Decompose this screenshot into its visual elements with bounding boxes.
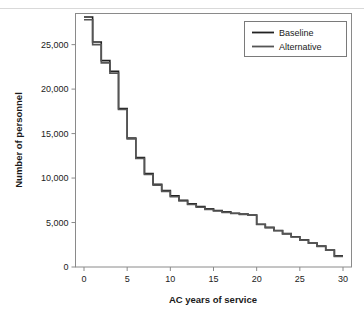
y-tick-label: 20,000 bbox=[41, 84, 69, 94]
figure-top-rule bbox=[0, 8, 364, 9]
y-tick-label: 10,000 bbox=[41, 173, 69, 183]
legend-label-baseline: Baseline bbox=[279, 28, 314, 38]
x-tick-label: 15 bbox=[208, 274, 218, 284]
x-tick-label: 10 bbox=[165, 274, 175, 284]
x-tick-label: 25 bbox=[295, 274, 305, 284]
x-axis: 051015202530 bbox=[81, 267, 348, 284]
chart-figure: 05,00010,00015,00020,00025,000 051015202… bbox=[0, 0, 364, 320]
legend[interactable]: Baseline Alternative bbox=[245, 22, 347, 57]
x-axis-title: AC years of service bbox=[169, 294, 257, 305]
y-tick-label: 25,000 bbox=[41, 40, 69, 50]
y-axis-title: Number of personnel bbox=[13, 92, 24, 188]
y-tick-label: 15,000 bbox=[41, 129, 69, 139]
step-chart-canvas: 05,00010,00015,00020,00025,000 051015202… bbox=[0, 0, 364, 320]
y-tick-label: 0 bbox=[63, 262, 68, 272]
y-axis: 05,00010,00015,00020,00025,000 bbox=[41, 40, 76, 272]
y-tick-label: 5,000 bbox=[46, 218, 69, 228]
x-tick-label: 5 bbox=[125, 274, 130, 284]
x-tick-label: 20 bbox=[252, 274, 262, 284]
legend-label-alternative: Alternative bbox=[279, 42, 322, 52]
x-tick-label: 30 bbox=[338, 274, 348, 284]
x-tick-label: 0 bbox=[81, 274, 86, 284]
